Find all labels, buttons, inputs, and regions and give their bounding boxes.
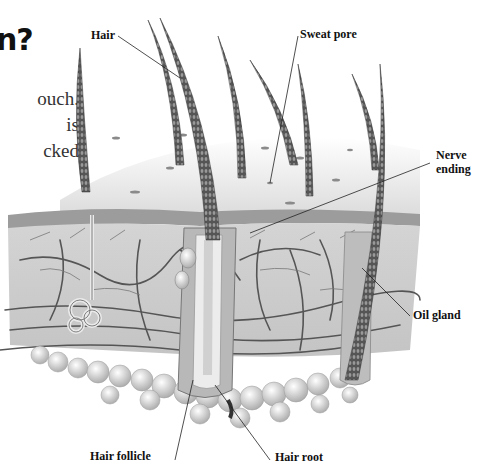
label-nerve-ending: Nerve ending xyxy=(436,148,471,176)
label-nerve-ending-line1: Nerve xyxy=(436,148,471,162)
label-hair-follicle: Hair follicle xyxy=(90,449,151,463)
skin-diagram xyxy=(0,0,486,464)
label-hair-root: Hair root xyxy=(275,450,323,464)
label-oil-gland: Oil gland xyxy=(413,308,461,322)
label-sweat-pore: Sweat pore xyxy=(300,27,357,41)
label-hair: Hair xyxy=(91,28,115,42)
label-nerve-ending-line2: ending xyxy=(436,162,471,176)
